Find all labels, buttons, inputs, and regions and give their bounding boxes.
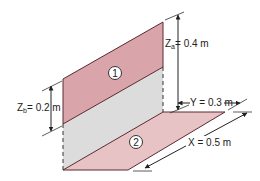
surface-2-label: 2 (130, 136, 143, 149)
surface-1-label: 1 (109, 67, 122, 80)
zb-label: Zb= 0.2 m (17, 102, 61, 114)
radiation-view-factor-diagram: 1 2 Za= 0.4 m Zb= 0.2 m Y = 0.3 m X = 0.… (0, 0, 260, 181)
zb-extension-bottom (42, 126, 62, 136)
svg-text:1: 1 (112, 68, 118, 79)
za-label: Za= 0.4 m (165, 38, 209, 50)
y-label: Y = 0.3 m (190, 97, 233, 108)
zb-extension-top (42, 81, 62, 91)
za-extension-top (165, 12, 184, 20)
x-label: X = 0.5 m (188, 137, 231, 148)
svg-text:2: 2 (133, 137, 139, 148)
